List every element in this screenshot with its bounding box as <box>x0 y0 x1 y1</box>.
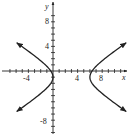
plot-area: x y -4 4 8 8 4 -8 <box>0 0 129 136</box>
hyperbola-graph: x y -4 4 8 8 4 -8 <box>0 0 129 136</box>
y-tick-label-8: 8 <box>45 17 49 26</box>
x-tick-label-8: 8 <box>99 74 103 83</box>
axes <box>2 2 127 134</box>
y-tick-label-neg8: -8 <box>40 117 47 126</box>
x-axis-label: x <box>121 73 126 82</box>
hyperbola-curves <box>17 43 126 112</box>
y-axis-label: y <box>44 2 49 11</box>
x-tick-label-4: 4 <box>75 74 79 83</box>
x-tick-label-neg4: -4 <box>23 74 30 83</box>
right-branch <box>90 43 126 112</box>
y-tick-label-4: 4 <box>45 42 49 51</box>
